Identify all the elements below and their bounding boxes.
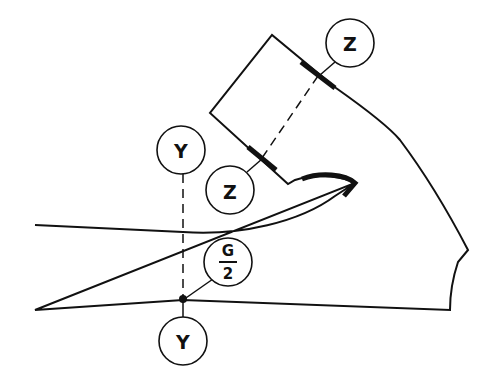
g-half-bubble: G 2	[204, 238, 252, 286]
g-leader	[183, 279, 213, 300]
point-marker	[179, 295, 187, 303]
y-bottom-bubble: Y	[159, 317, 207, 365]
g-numerator: G	[222, 242, 234, 260]
z-bottom-leader	[247, 159, 262, 172]
g-denominator: 2	[223, 265, 233, 283]
z-top-label: Z	[343, 33, 357, 55]
z-top-bubble: Z	[326, 19, 374, 67]
y-top-bubble: Y	[157, 126, 205, 174]
z-dashed-line	[262, 76, 318, 158]
z-top-leader	[320, 62, 335, 75]
z-bottom-bubble: Z	[206, 166, 254, 214]
pattern-diagram: Z Z Y Y G 2	[0, 0, 490, 387]
y-top-label: Y	[173, 140, 188, 162]
z-bottom-label: Z	[223, 181, 237, 203]
y-bottom-label: Y	[175, 331, 190, 353]
